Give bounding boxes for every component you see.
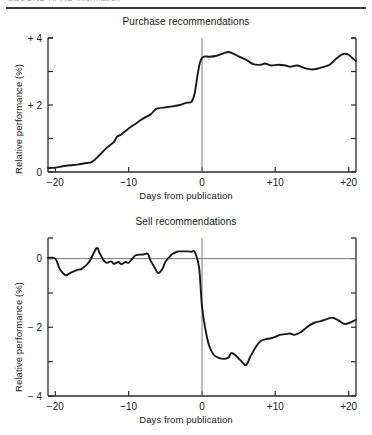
y-tick-label: 0 [36, 253, 42, 264]
x-tick-label: +10 [267, 401, 284, 412]
x-tick-label: 0 [199, 401, 205, 412]
x-tick-label: −20 [47, 177, 64, 188]
running-header-text: SECOND-HAND information [8, 0, 364, 3]
x-tick-label: +20 [340, 401, 357, 412]
x-tick-label: −20 [47, 401, 64, 412]
x-tick-label: +10 [267, 177, 284, 188]
y-tick-label: + 2 [28, 100, 43, 111]
y-tick-label: − 2 [28, 322, 43, 333]
x-tick-label: −10 [120, 177, 137, 188]
x-tick-label: −10 [120, 401, 137, 412]
y-tick-label: + 4 [28, 33, 43, 44]
chart-purchase-recommendations: Purchase recommendations Relative perfor… [0, 14, 372, 210]
x-axis-title: Days from publication [0, 190, 372, 201]
x-tick-label: +20 [340, 177, 357, 188]
y-tick-label: 0 [36, 167, 42, 178]
plot-area: − 4− 20−20−100+10+20 [0, 214, 372, 435]
chart-sell-recommendations: Sell recommendations Relative performanc… [0, 214, 372, 435]
x-axis-title: Days from publication [0, 414, 372, 425]
page-running-header: SECOND-HAND information [0, 0, 372, 12]
header-divider-rule [6, 7, 366, 9]
y-tick-label: − 4 [28, 391, 43, 402]
plot-area: 0+ 2+ 4−20−100+10+20 [0, 14, 372, 210]
x-tick-label: 0 [199, 177, 205, 188]
